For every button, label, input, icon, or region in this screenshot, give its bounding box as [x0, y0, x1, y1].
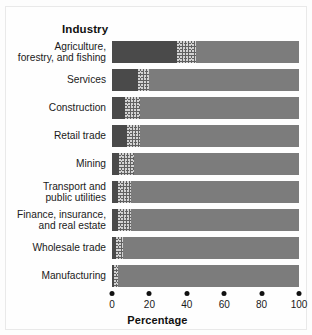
axis-tick-label: 0 [109, 299, 115, 310]
bar-row: Agriculture,forestry, and fishing [0, 41, 312, 63]
category-label: Retail trade [8, 130, 106, 141]
bar-segment-dark [112, 41, 177, 63]
category-label-line: Construction [8, 102, 106, 113]
bar-segment-light [118, 265, 299, 287]
bar-row: Finance, insurance,and real estate [0, 209, 312, 231]
bar-row: Construction [0, 97, 312, 119]
bar-segment-light [131, 209, 299, 231]
bar-segment-dark [112, 209, 118, 231]
plot-area: Industry Agriculture,forestry, and fishi… [0, 0, 312, 335]
bar-row: Services [0, 69, 312, 91]
stacked-bar[interactable] [112, 125, 299, 147]
axis-tick-dot [259, 291, 264, 296]
axis-tick-dot [110, 291, 115, 296]
category-label-line: Transport and [8, 181, 106, 192]
bar-segment-light [123, 237, 299, 259]
category-label-line: Retail trade [8, 130, 106, 141]
bar-row: Retail trade [0, 125, 312, 147]
category-label: Mining [8, 158, 106, 169]
bar-row: Transport andpublic utilities [0, 181, 312, 203]
category-label-line: forestry, and fishing [8, 52, 106, 63]
category-label: Construction [8, 102, 106, 113]
bar-segment-light [149, 69, 299, 91]
bar-segment-stippled [125, 97, 140, 119]
x-axis: 020406080100 Percentage [0, 291, 312, 335]
stacked-bar[interactable] [112, 69, 299, 91]
bar-segment-light [140, 97, 299, 119]
bar-row: Mining [0, 153, 312, 175]
bar-segment-stippled [118, 209, 131, 231]
bar-segment-stippled [116, 237, 123, 259]
axis-tick-label: 20 [144, 299, 155, 310]
category-label-line: Manufacturing [8, 270, 106, 281]
category-label: Finance, insurance,and real estate [8, 209, 106, 232]
axis-tick-label: 80 [256, 299, 267, 310]
axis-tick-dot [147, 291, 152, 296]
bar-segment-stippled [138, 69, 149, 91]
bar-segment-dark [112, 69, 138, 91]
category-label-line: Mining [8, 158, 106, 169]
category-label: Manufacturing [8, 270, 106, 281]
stacked-bar[interactable] [112, 153, 299, 175]
category-label-line: and real estate [8, 220, 106, 231]
stacked-bar[interactable] [112, 265, 299, 287]
bar-segment-light [140, 125, 299, 147]
bar-segment-stippled [127, 125, 140, 147]
category-label-line: Services [8, 74, 106, 85]
axis-tick-label: 40 [181, 299, 192, 310]
category-label: Agriculture,forestry, and fishing [8, 41, 106, 64]
bar-segment-dark [112, 153, 119, 175]
axis-tick-dot [297, 291, 302, 296]
axis-tick-label: 60 [219, 299, 230, 310]
category-label: Wholesale trade [8, 242, 106, 253]
stacked-bar[interactable] [112, 181, 299, 203]
bar-segment-dark [112, 265, 114, 287]
category-label: Services [8, 74, 106, 85]
bar-segment-light [131, 181, 299, 203]
chart-figure: Industry Agriculture,forestry, and fishi… [0, 0, 312, 335]
x-axis-title: Percentage [127, 314, 187, 326]
category-label-line: public utilities [8, 192, 106, 203]
category-label-line: Agriculture, [8, 41, 106, 52]
bar-segment-light [134, 153, 299, 175]
axis-tick-label: 100 [291, 299, 308, 310]
bar-row: Manufacturing [0, 265, 312, 287]
stacked-bar[interactable] [112, 97, 299, 119]
bar-segment-dark [112, 125, 127, 147]
category-label: Transport andpublic utilities [8, 181, 106, 204]
category-label-line: Wholesale trade [8, 242, 106, 253]
category-label-line: Finance, insurance, [8, 209, 106, 220]
bar-segment-dark [112, 237, 116, 259]
bar-segment-stippled [118, 181, 131, 203]
bar-row: Wholesale trade [0, 237, 312, 259]
bar-segment-stippled [119, 153, 134, 175]
stacked-bar[interactable] [112, 41, 299, 63]
axis-tick-dot [222, 291, 227, 296]
bar-segment-dark [112, 97, 125, 119]
stacked-bar[interactable] [112, 237, 299, 259]
axis-tick-dot [184, 291, 189, 296]
bar-segment-dark [112, 181, 118, 203]
bar-segment-stippled [114, 265, 118, 287]
page-title: Industry [62, 23, 172, 35]
bar-segment-light [196, 41, 299, 63]
stacked-bar[interactable] [112, 209, 299, 231]
bar-segment-stippled [177, 41, 196, 63]
